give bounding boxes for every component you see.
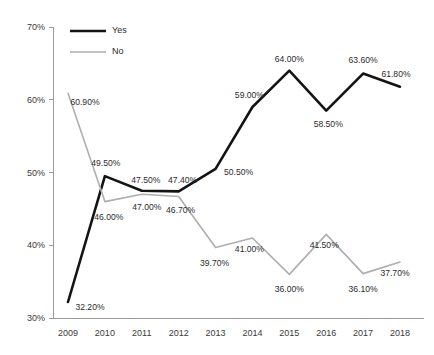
line-chart: 30%40%50%60%70% 200920102011201220132014… xyxy=(0,0,434,355)
data-point-label: 61.80% xyxy=(381,69,411,79)
data-point-label: 39.70% xyxy=(200,258,230,268)
data-point-label: 50.50% xyxy=(224,167,254,177)
data-point-label: 37.70% xyxy=(380,268,410,278)
y-axis-ticks: 30%40%50%60%70% xyxy=(27,22,53,323)
data-point-label: 36.00% xyxy=(275,284,305,294)
x-axis-tick-labels: 2009201020112012201320142015201620172018 xyxy=(58,328,410,338)
data-point-label: 41.50% xyxy=(310,240,340,250)
data-point-label: 49.50% xyxy=(91,158,121,168)
x-axis-tick-label: 2012 xyxy=(169,328,189,338)
x-axis-group: 2009201020112012201320142015201620172018 xyxy=(53,318,424,338)
x-axis-tick-label: 2009 xyxy=(58,328,78,338)
legend-label-yes: Yes xyxy=(112,25,127,35)
data-point-label: 64.00% xyxy=(275,54,305,64)
x-axis-tick-label: 2018 xyxy=(390,328,410,338)
data-point-label: 46.70% xyxy=(166,205,196,215)
y-axis-tick-label: 70% xyxy=(27,22,45,32)
data-point-label: 47.40% xyxy=(168,175,198,185)
x-axis-tick-label: 2017 xyxy=(353,328,373,338)
data-point-label: 46.00% xyxy=(94,212,124,222)
data-point-label: 47.00% xyxy=(132,202,162,212)
x-axis-tick-label: 2013 xyxy=(206,328,226,338)
x-axis-tick-label: 2016 xyxy=(316,328,336,338)
y-axis-group: 30%40%50%60%70% xyxy=(27,22,53,323)
y-axis-tick-label: 60% xyxy=(27,95,45,105)
data-series-group xyxy=(68,71,400,302)
data-point-label: 59.00% xyxy=(235,90,265,100)
chart-legend: YesNo xyxy=(70,25,127,56)
y-axis-tick-label: 50% xyxy=(27,168,45,178)
x-axis-tick-label: 2015 xyxy=(279,328,299,338)
legend-label-no: No xyxy=(112,46,124,56)
x-axis-tick-label: 2011 xyxy=(132,328,151,338)
data-point-label: 58.50% xyxy=(314,119,344,129)
series-line-yes xyxy=(68,71,400,302)
data-point-label: 36.10% xyxy=(349,284,379,294)
chart-canvas: 30%40%50%60%70% 200920102011201220132014… xyxy=(0,0,434,355)
data-point-label: 60.90% xyxy=(70,97,100,107)
x-axis-tick-label: 2010 xyxy=(95,328,115,338)
data-point-label: 41.00% xyxy=(235,244,265,254)
y-axis-tick-label: 30% xyxy=(27,313,45,323)
data-point-label: 47.50% xyxy=(131,175,161,185)
data-point-label: 63.60% xyxy=(349,55,379,65)
x-axis-tick-label: 2014 xyxy=(242,328,262,338)
y-axis-tick-label: 40% xyxy=(27,240,45,250)
data-point-label: 32.20% xyxy=(75,302,105,312)
